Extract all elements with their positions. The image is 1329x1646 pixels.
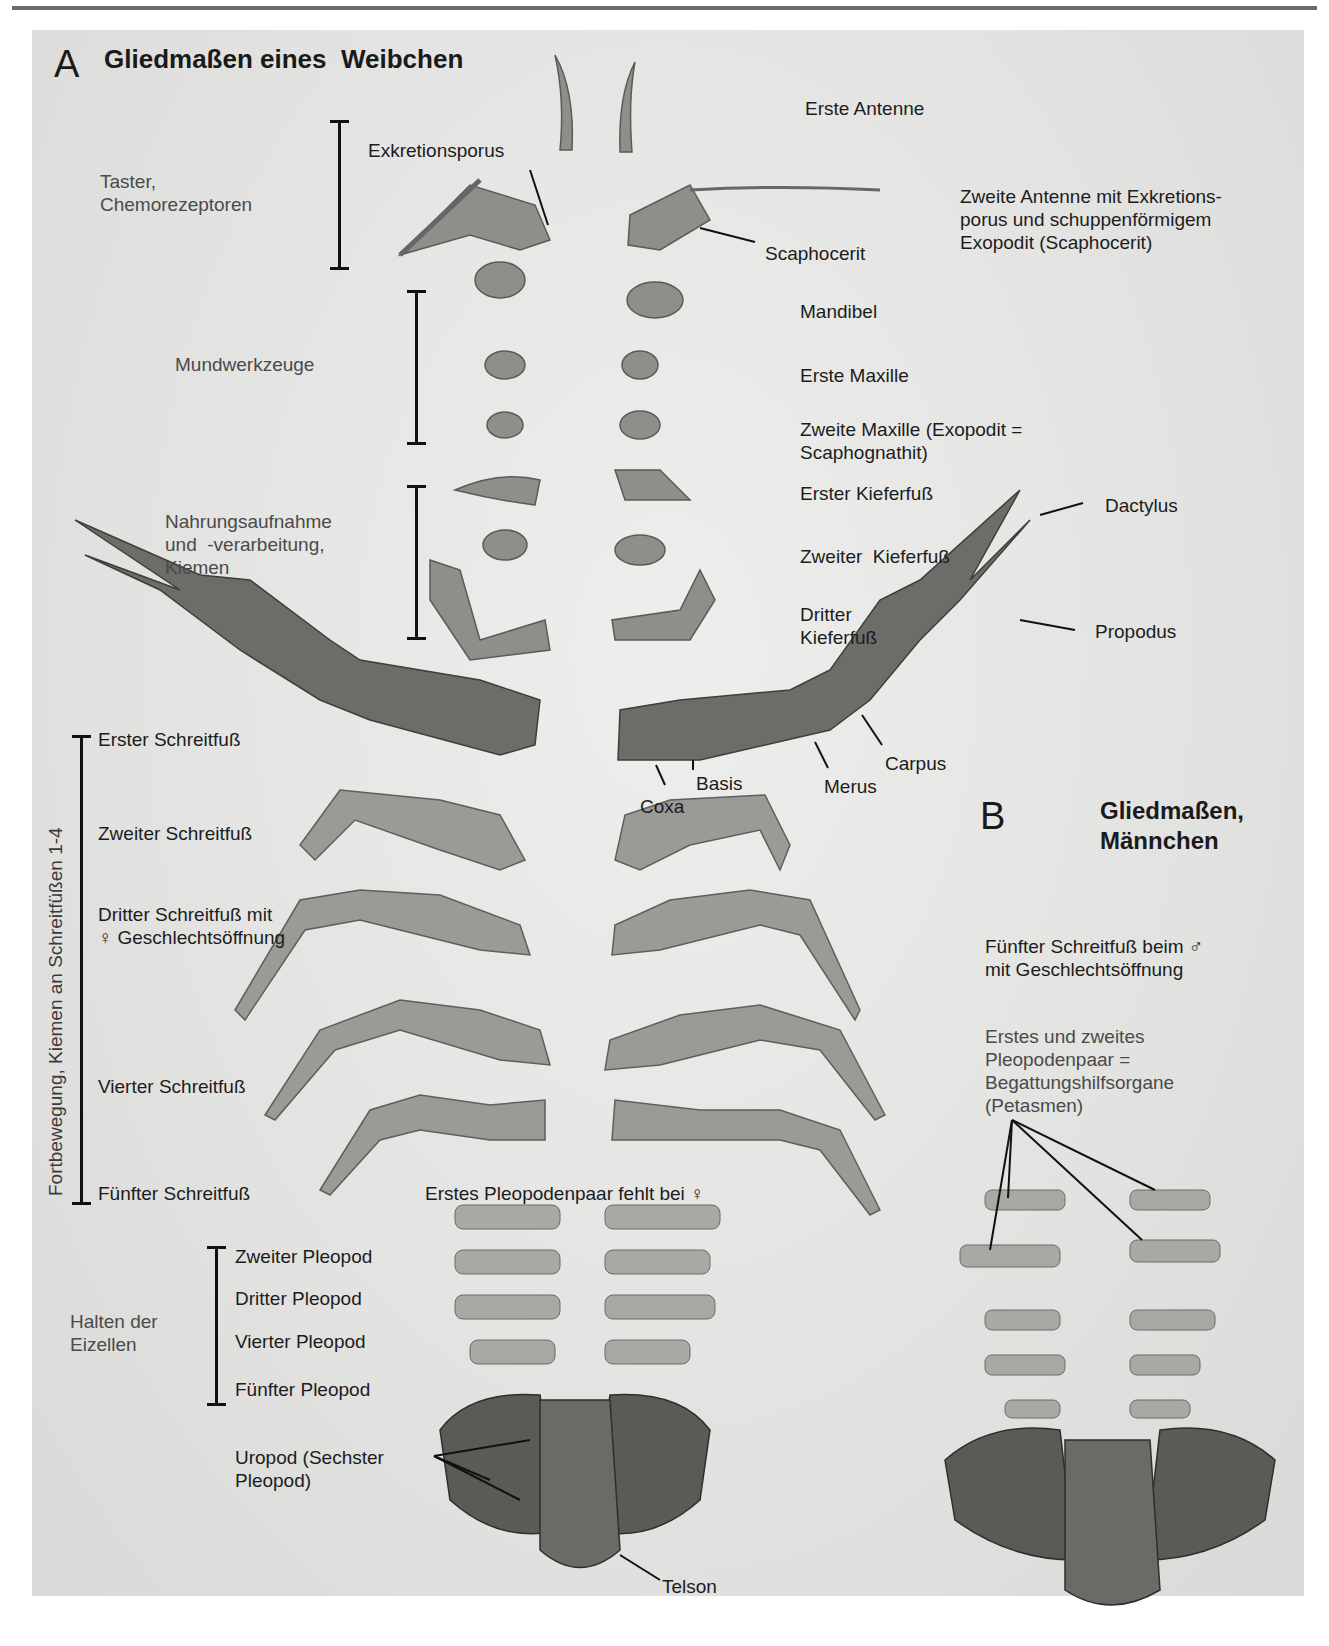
label-erste-maxille: Erste Maxille: [800, 364, 909, 387]
walking-leg-3-right: [612, 890, 860, 1020]
label-dritter-kieferfuss: Dritter Kieferfuß: [800, 603, 877, 649]
telson-female: [540, 1400, 620, 1568]
label-coxa: Coxa: [640, 795, 684, 818]
label-erster-kieferfuss: Erster Kieferfuß: [800, 482, 933, 505]
function-nahrung: Nahrungsaufnahme und -verarbeitung, Kiem…: [165, 510, 332, 579]
label-pleopod-4: Vierter Pleopod: [235, 1330, 366, 1353]
bracket-walking-legs: [80, 735, 83, 1205]
label-exkretionsporus: Exkretionsporus: [368, 139, 504, 162]
walking-leg-4-right: [605, 1005, 885, 1120]
panel-letter-b: B: [980, 796, 1005, 836]
bracket-pleopods: [215, 1246, 218, 1406]
label-pleopod-3: Dritter Pleopod: [235, 1287, 362, 1310]
label-zweite-antenne: Zweite Antenne mit Exkretions- porus und…: [960, 185, 1222, 254]
label-dactylus: Dactylus: [1105, 494, 1178, 517]
label-schreitfuss-2: Zweiter Schreitfuß: [98, 822, 252, 845]
mandible-left: [475, 262, 525, 298]
second-antenna-right: [628, 185, 710, 250]
label-fuenfter-schreitfuss-male: Fünfter Schreitfuß beim ♂ mit Geschlecht…: [985, 935, 1203, 981]
label-scaphocerit: Scaphocerit: [765, 242, 865, 265]
telson-male: [1065, 1440, 1160, 1605]
bracket-mouthparts: [415, 290, 418, 445]
label-erste-antenne: Erste Antenne: [805, 97, 924, 120]
label-zweite-maxille: Zweite Maxille (Exopodit = Scaphognathit…: [800, 418, 1022, 464]
function-taster: Taster, Chemorezeptoren: [100, 170, 252, 216]
label-petasmen: Erstes und zweites Pleopodenpaar = Begat…: [985, 1025, 1174, 1117]
function-fortbewegung: Fortbewegung, Kiemen an Schreitfüßen 1-4: [45, 827, 67, 1196]
bracket-antennae: [338, 120, 341, 270]
function-mundwerkzeuge: Mundwerkzeuge: [175, 353, 314, 376]
label-basis: Basis: [696, 772, 742, 795]
label-zweiter-kieferfuss: Zweiter Kieferfuß: [800, 545, 950, 568]
label-mandibel: Mandibel: [800, 300, 877, 323]
label-schreitfuss-1: Erster Schreitfuß: [98, 728, 241, 751]
label-merus: Merus: [824, 775, 877, 798]
function-halten: Halten der Eizellen: [70, 1310, 158, 1356]
label-schreitfuss-5: Fünfter Schreitfuß: [98, 1182, 250, 1205]
second-antenna-left: [400, 185, 550, 255]
mandible-right: [627, 282, 683, 318]
first-antenna-right: [620, 62, 635, 152]
label-telson: Telson: [662, 1575, 717, 1598]
label-carpus: Carpus: [885, 752, 946, 775]
first-antenna-left: [555, 55, 572, 150]
walking-leg-2-left: [300, 790, 525, 870]
label-uropod: Uropod (Sechster Pleopod): [235, 1446, 384, 1492]
label-pleopod-2: Zweiter Pleopod: [235, 1245, 372, 1268]
label-schreitfuss-3: Dritter Schreitfuß mit ♀ Geschlechtsöffn…: [98, 903, 285, 949]
panel-a-title: Gliedmaßen eines Weibchen: [104, 44, 463, 74]
label-pleopod-note: Erstes Pleopodenpaar fehlt bei ♀: [425, 1182, 704, 1205]
panel-b-title: Gliedmaßen, Männchen: [1100, 796, 1244, 856]
label-pleopod-5: Fünfter Pleopod: [235, 1378, 370, 1401]
bracket-maxillipeds: [415, 485, 418, 640]
walking-leg-5-left: [320, 1095, 545, 1195]
panel-letter-a: A: [54, 44, 79, 84]
label-propodus: Propodus: [1095, 620, 1176, 643]
label-schreitfuss-4: Vierter Schreitfuß: [98, 1075, 245, 1098]
